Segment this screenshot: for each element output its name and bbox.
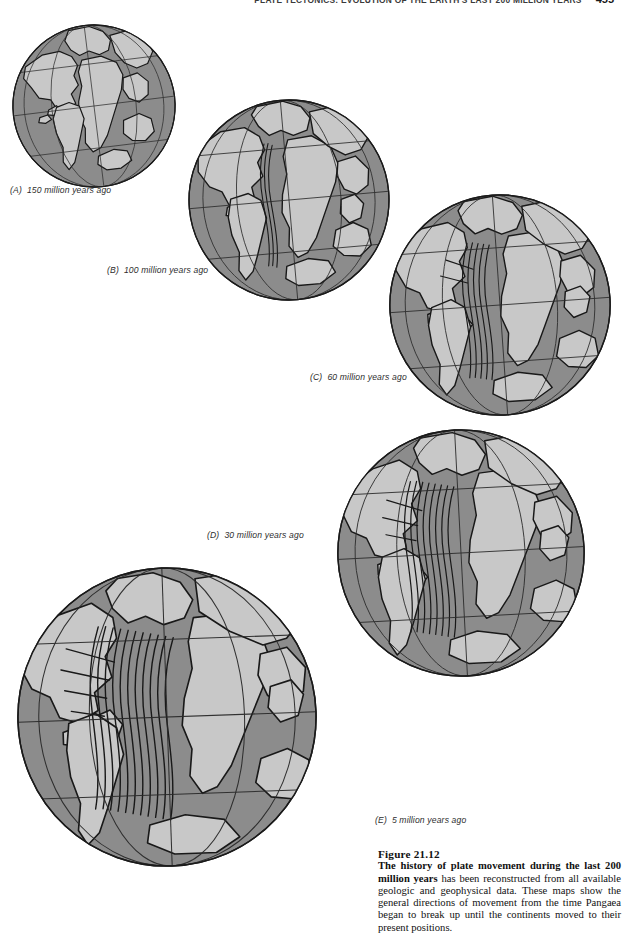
panel-key-c: (C) xyxy=(310,372,322,382)
panel-label-b: (B)100 million years ago xyxy=(107,265,208,275)
panel-key-d: (D) xyxy=(207,530,219,540)
globe-a-svg xyxy=(8,18,180,194)
figure-caption: Figure 21.12The history of plate movemen… xyxy=(378,848,621,934)
running-head-text: PLATE TECTONICS: EVOLUTION OF THE EARTH'… xyxy=(254,0,581,5)
globe-d-svg xyxy=(330,420,592,686)
figure-number: Figure 21.12 xyxy=(378,848,621,860)
globe-b-svg xyxy=(183,92,395,308)
panel-key-b: (B) xyxy=(107,265,119,275)
panel-text-c: 60 million years ago xyxy=(327,372,406,382)
panel-label-a: (A)150 million years ago xyxy=(10,185,111,195)
globe-panel-d xyxy=(330,420,592,686)
globe-panel-b xyxy=(183,92,395,308)
globe-c-svg xyxy=(383,186,617,424)
globe-panel-a xyxy=(8,18,180,194)
globe-panel-e xyxy=(8,556,326,878)
page-number: 455 xyxy=(596,0,614,5)
figure-page: PLATE TECTONICS: EVOLUTION OF THE EARTH'… xyxy=(0,0,628,935)
panel-label-e: (E)5 million years ago xyxy=(375,815,466,825)
panel-text-a: 150 million years ago xyxy=(27,185,111,195)
panel-label-c: (C)60 million years ago xyxy=(310,372,407,382)
panel-key-e: (E) xyxy=(375,815,387,825)
globe-panel-c xyxy=(383,186,617,424)
globe-e-svg xyxy=(8,556,326,878)
panel-text-d: 30 million years ago xyxy=(224,530,303,540)
panel-text-e: 5 million years ago xyxy=(392,815,467,825)
panel-text-b: 100 million years ago xyxy=(124,265,208,275)
running-head: PLATE TECTONICS: EVOLUTION OF THE EARTH'… xyxy=(0,0,628,7)
panel-label-d: (D)30 million years ago xyxy=(207,530,304,540)
panel-key-a: (A) xyxy=(10,185,22,195)
